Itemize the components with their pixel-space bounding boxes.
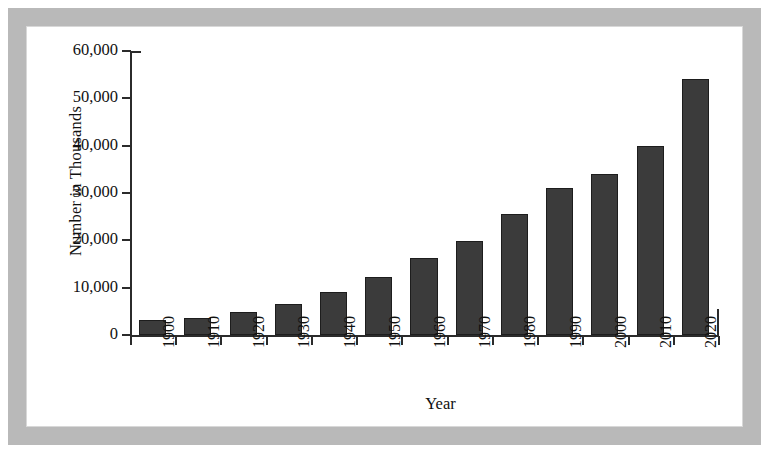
y-axis-tick-label-text: 60,000 (32, 42, 118, 59)
x-axis-tick-label: 1970 (476, 278, 494, 348)
x-axis-tick-label: 1920 (250, 278, 268, 348)
frame-border-right (743, 8, 761, 445)
x-axis-tick (130, 336, 132, 345)
x-axis-tick-label: 1950 (386, 278, 404, 348)
x-axis-tick-label: 1900 (160, 278, 178, 348)
y-axis-tick-label-text: 30,000 (32, 184, 118, 201)
y-axis-tick-label-text: 20,000 (32, 231, 118, 248)
y-axis-tick-label-text: 50,000 (32, 89, 118, 106)
x-axis-title-text: Year (425, 394, 455, 413)
x-axis-title: Year (26, 394, 743, 414)
y-axis-tick (122, 50, 131, 52)
x-axis-tick-label: 1930 (295, 278, 313, 348)
y-axis-tick-label-text: 10,000 (32, 279, 118, 296)
x-axis-tick-label: 1980 (521, 278, 539, 348)
x-axis-tick-label: 1910 (205, 278, 223, 348)
x-axis-tick-label: 1940 (341, 278, 359, 348)
x-axis-tick-label: 1990 (567, 278, 585, 348)
figure-frame: Number in Thousands 010,00020,00030,0004… (0, 0, 769, 453)
y-axis-tick (122, 287, 131, 289)
x-axis-tick-label: 2010 (657, 278, 675, 348)
x-axis-tick-label: 2020 (702, 278, 720, 348)
frame-border-bottom (8, 427, 761, 445)
y-axis-tick (122, 97, 131, 99)
x-axis-tick-label: 2000 (612, 278, 630, 348)
y-axis-tick (122, 145, 131, 147)
x-axis-tick-label: 1960 (431, 278, 449, 348)
y-axis-tick (122, 192, 131, 194)
y-axis-top-cap (130, 51, 141, 53)
frame-border-top (8, 8, 761, 26)
y-axis-tick-label-text: 0 (32, 326, 118, 343)
frame-border-left (8, 8, 26, 445)
y-axis-tick-label-text: 40,000 (32, 137, 118, 154)
bar-chart: Number in Thousands 010,00020,00030,0004… (26, 26, 743, 427)
y-axis-tick (122, 239, 131, 241)
